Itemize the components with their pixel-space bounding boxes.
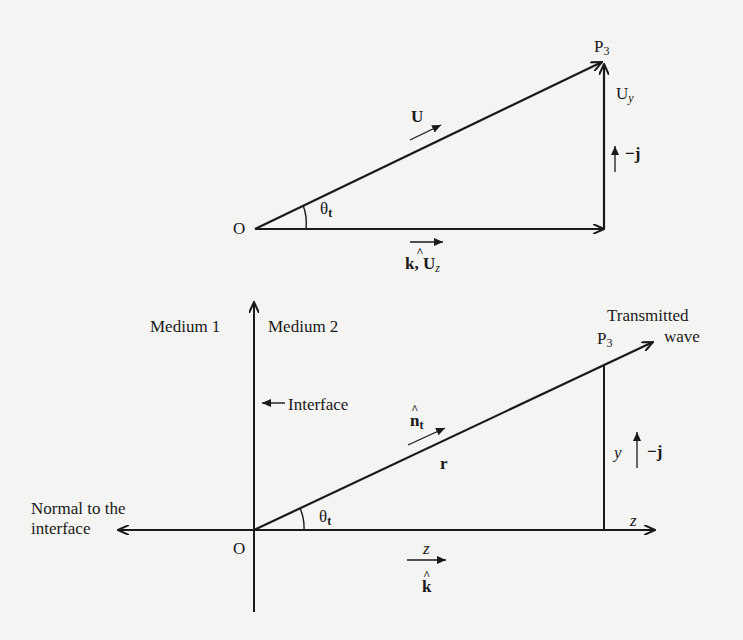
bottom-origin-label: O — [233, 540, 245, 557]
top-uy-label: Uy — [616, 85, 634, 104]
top-hypotenuse-U — [255, 62, 602, 229]
transmitted-wave-label-line1: Transmitted — [607, 307, 689, 324]
interface-label: Interface — [288, 396, 348, 413]
normal-label-line2: interface — [31, 520, 90, 537]
bottom-j-label: −j — [647, 443, 662, 460]
bottom-diagram — [118, 302, 655, 612]
transmitted-wave-ray — [254, 342, 653, 530]
top-point-label: P3 — [594, 38, 609, 57]
medium2-label: Medium 2 — [268, 318, 338, 335]
y-label: y — [614, 444, 622, 461]
top-angle-label: θt — [320, 200, 332, 219]
top-angle-arc — [303, 205, 306, 229]
top-k-uz-label: k, Uz — [405, 255, 440, 274]
top-hypotenuse-label: U — [411, 108, 423, 125]
z-label: z — [423, 540, 430, 557]
top-j-label: −j — [625, 145, 640, 162]
normal-label-line1: Normal to the — [31, 500, 125, 517]
top-U-direction-arrow — [410, 125, 441, 140]
medium1-label: Medium 1 — [150, 318, 220, 335]
nt-label: nt — [410, 412, 423, 431]
z-axis-label: z — [630, 512, 637, 529]
top-origin-label: O — [233, 220, 245, 237]
bottom-angle-arc — [300, 508, 304, 530]
diagram-canvas: O P3 U Uy −j θt k, Uz Medium 1 Medium 2 … — [0, 0, 743, 640]
bottom-angle-label: θt — [319, 508, 331, 527]
bottom-point-label: P3 — [597, 330, 612, 349]
transmitted-wave-label-line2: wave — [664, 328, 700, 345]
r-label: r — [440, 455, 448, 472]
top-triangle — [255, 62, 615, 242]
k-label: k — [422, 578, 431, 595]
